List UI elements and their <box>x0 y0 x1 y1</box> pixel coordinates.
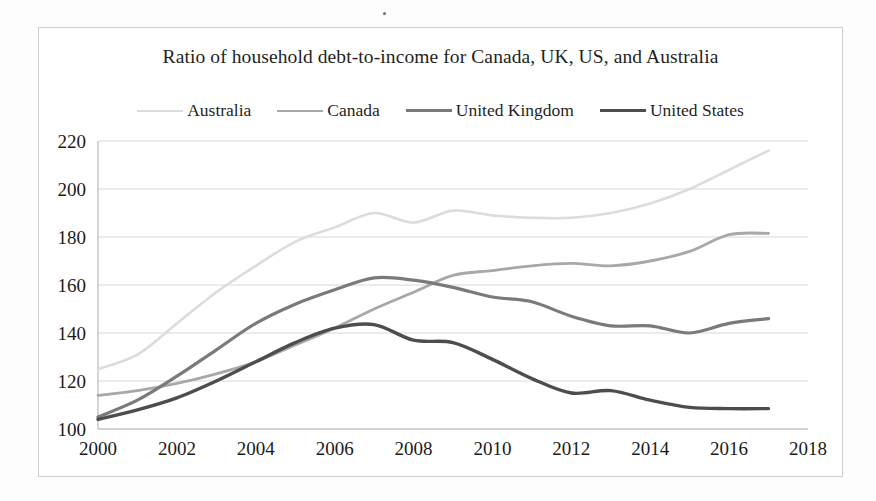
x-tick-2002: 2002 <box>158 438 196 459</box>
x-tick-2018: 2018 <box>789 438 827 459</box>
series-line-united-states <box>98 324 769 420</box>
x-tick-2004: 2004 <box>237 438 276 459</box>
y-tick-160: 160 <box>58 275 87 296</box>
x-tick-2014: 2014 <box>631 438 670 459</box>
series-line-united-kingdom <box>98 277 769 417</box>
y-tick-100: 100 <box>58 419 87 440</box>
x-tick-2006: 2006 <box>316 438 354 459</box>
x-tick-2000: 2000 <box>79 438 117 459</box>
y-tick-220: 220 <box>58 131 87 152</box>
y-tick-200: 200 <box>58 179 87 200</box>
x-axis-tick-labels: 2000200220042006200820102012201420162018 <box>79 438 827 459</box>
plot-area: 100120140160180200220 200020022004200620… <box>0 0 876 501</box>
x-tick-2010: 2010 <box>473 438 511 459</box>
y-axis-tick-labels: 100120140160180200220 <box>58 131 87 440</box>
x-tick-2008: 2008 <box>395 438 433 459</box>
series-line-australia <box>98 151 769 369</box>
y-tick-120: 120 <box>58 371 87 392</box>
y-tick-140: 140 <box>58 323 87 344</box>
chart-figure: Ratio of household debt-to-income for Ca… <box>0 0 876 501</box>
x-tick-2012: 2012 <box>552 438 590 459</box>
y-tick-180: 180 <box>58 227 87 248</box>
x-tick-2016: 2016 <box>710 438 748 459</box>
series-line-canada <box>98 233 769 395</box>
